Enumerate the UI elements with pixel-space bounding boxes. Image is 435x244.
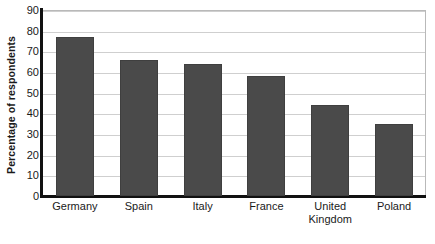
y-axis-tick-label: 50: [27, 87, 39, 99]
y-axis-tick-label: 80: [27, 25, 39, 37]
x-axis-tick-label: Germany: [43, 200, 107, 226]
bar-slot: [298, 10, 362, 196]
y-axis-tick-label: 30: [27, 128, 39, 140]
y-axis-tick-label: 0: [33, 190, 39, 202]
bar-france: [247, 76, 285, 196]
x-axis-tick-label: Poland: [362, 200, 426, 226]
bar-slot: [171, 10, 235, 196]
x-axis-tick-label: Spain: [107, 200, 171, 226]
bar-germany: [56, 37, 94, 196]
bar-spain: [120, 60, 158, 196]
y-axis-tick-label: 90: [27, 4, 39, 16]
bar-slot: [234, 10, 298, 196]
bars-container: [43, 10, 426, 196]
x-axis-tick-label: United Kingdom: [298, 200, 362, 226]
bar-italy: [184, 64, 222, 196]
bar-slot: [43, 10, 107, 196]
bar-slot: [362, 10, 426, 196]
bar-united-kingdom: [311, 105, 349, 196]
x-axis-tick-label: France: [234, 200, 298, 226]
y-axis-tick-label: 10: [27, 169, 39, 181]
y-axis-title-label: Percentage of respondents: [5, 36, 17, 174]
y-axis-tick-labels: 9080706050403020100: [20, 10, 41, 196]
bar-poland: [375, 124, 413, 196]
x-axis-tick-label: Italy: [171, 200, 235, 226]
y-axis-tick-label: 40: [27, 107, 39, 119]
y-axis-tick-label: 20: [27, 149, 39, 161]
y-axis-tick-label: 60: [27, 66, 39, 78]
y-axis-title: Percentage of respondents: [0, 0, 22, 210]
bar-slot: [107, 10, 171, 196]
y-axis-tick-label: 70: [27, 45, 39, 57]
bar-chart-figure: Percentage of respondents 90807060504030…: [0, 0, 435, 244]
x-axis-tick-labels: GermanySpainItalyFranceUnited KingdomPol…: [43, 200, 426, 226]
